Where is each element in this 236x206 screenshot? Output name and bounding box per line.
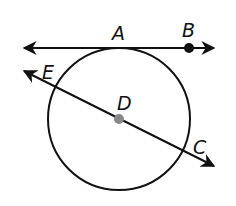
label-e: E bbox=[42, 61, 54, 83]
point-b-dot bbox=[184, 43, 194, 53]
label-c: C bbox=[193, 136, 207, 158]
geometry-diagram: A B E D C bbox=[0, 0, 236, 206]
point-d-dot bbox=[114, 114, 124, 124]
label-d: D bbox=[117, 92, 132, 114]
label-b: B bbox=[182, 19, 195, 41]
label-a: A bbox=[110, 22, 125, 44]
